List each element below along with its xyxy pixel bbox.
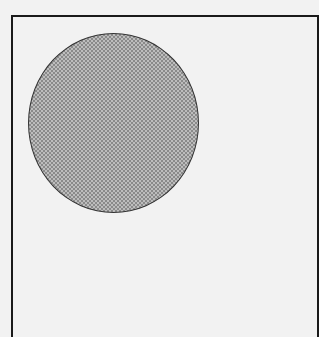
- dotted-circle-shape: [28, 33, 199, 213]
